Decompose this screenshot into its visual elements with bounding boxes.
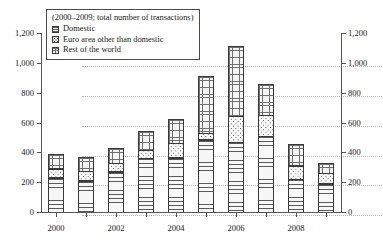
chart-legend: (2000–2009; total number of transactions… <box>46 9 200 60</box>
bar-segment-domestic <box>168 158 184 213</box>
bar-segment-rest-of-world <box>258 84 274 115</box>
legend-item-domestic: Domestic <box>52 24 193 35</box>
legend-swatch-euro-area-icon <box>52 36 59 43</box>
legend-swatch-domestic-icon <box>52 26 59 33</box>
bar-segment-domestic <box>258 136 274 213</box>
legend-swatch-rest-of-world-icon <box>52 47 59 54</box>
x-axis-tick-label-2006: 2006 <box>216 224 256 233</box>
y-axis-tick-label-right: 400 <box>348 148 361 157</box>
x-axis-tick <box>176 213 177 217</box>
y-axis-tick-label-left: 1,000 <box>15 59 34 68</box>
y-axis-tick <box>37 123 41 124</box>
y-axis-tick-label-left: 600 <box>21 119 34 128</box>
legend-label-domestic: Domestic <box>63 24 95 35</box>
bar-segment-euro-area <box>228 116 244 142</box>
y-axis-tick <box>37 33 41 34</box>
y-axis-tick-label-right: 1,000 <box>348 59 367 68</box>
bar-segment-rest-of-world <box>288 144 304 166</box>
y-axis-tick-label-left: 400 <box>21 148 34 157</box>
x-axis-tick <box>266 213 267 217</box>
y-axis-tick <box>342 93 346 94</box>
x-axis-tick-label-2002: 2002 <box>96 224 136 233</box>
y-axis-tick-label-right: 200 <box>348 178 361 187</box>
y-axis-left <box>41 33 42 212</box>
bar-segment-rest-of-world <box>198 76 214 133</box>
bar-2005 <box>198 76 214 212</box>
bar-segment-domestic <box>318 184 334 213</box>
y-axis-tick <box>37 152 41 153</box>
y-axis-tick-label-right: 1,200 <box>348 29 367 38</box>
x-axis-tick <box>86 213 87 217</box>
plot-area <box>41 33 341 212</box>
bar-2002 <box>108 148 124 212</box>
x-axis-tick <box>56 213 57 217</box>
bar-2007 <box>258 84 274 212</box>
y-axis-tick <box>37 63 41 64</box>
bar-segment-domestic <box>228 142 244 213</box>
legend-label-euro-area: Euro area other than domestic <box>63 35 163 46</box>
x-axis-tick-label-2008: 2008 <box>276 224 316 233</box>
x-axis-tick <box>296 213 297 217</box>
x-axis-tick <box>326 213 327 217</box>
bar-segment-domestic <box>288 179 304 213</box>
y-axis-tick <box>342 123 346 124</box>
bar-2009 <box>318 163 334 212</box>
y-axis-tick <box>342 212 346 213</box>
legend-item-rest-of-world: Rest of the world <box>52 45 193 56</box>
y-axis-tick-label-right: 600 <box>348 119 361 128</box>
bar-segment-rest-of-world <box>168 119 184 144</box>
y-axis-tick-label-left: 1,200 <box>15 29 34 38</box>
bar-segment-rest-of-world <box>138 131 154 151</box>
bar-segment-rest-of-world <box>78 157 94 172</box>
y-axis-tick <box>342 182 346 183</box>
x-axis-tick-label-2004: 2004 <box>156 224 196 233</box>
bar-segment-domestic <box>78 181 94 213</box>
x-axis-tick <box>116 213 117 217</box>
y-axis-tick-label-right: 0 <box>348 208 352 217</box>
y-axis-tick <box>37 93 41 94</box>
bar-2000 <box>48 154 64 212</box>
bar-segment-rest-of-world <box>228 46 244 118</box>
bar-segment-domestic <box>48 178 64 213</box>
y-axis-tick <box>342 33 346 34</box>
x-axis-tick <box>146 213 147 217</box>
y-axis-tick <box>342 152 346 153</box>
y-axis-tick <box>342 63 346 64</box>
y-axis-tick <box>37 182 41 183</box>
bar-segment-domestic <box>108 172 124 213</box>
legend-item-euro-area: Euro area other than domestic <box>52 35 193 46</box>
bar-segment-euro-area <box>288 166 304 180</box>
y-axis-tick-label-left: 0 <box>30 208 34 217</box>
legend-label-rest-of-world: Rest of the world <box>63 45 121 56</box>
bar-segment-euro-area <box>318 173 334 184</box>
y-axis-tick-label-left: 200 <box>21 178 34 187</box>
bar-segment-rest-of-world <box>48 154 64 169</box>
x-axis-tick-label-2000: 2000 <box>36 224 76 233</box>
x-axis-tick <box>206 213 207 217</box>
y-axis-tick <box>37 212 41 213</box>
gridline <box>82 215 382 216</box>
bar-2008 <box>288 144 304 212</box>
bar-segment-euro-area <box>258 115 274 137</box>
chart-figure: 002002004004006006008008001,0001,0001,20… <box>0 0 383 245</box>
x-axis-tick <box>236 213 237 217</box>
bar-2001 <box>78 157 94 212</box>
bar-segment-domestic <box>138 158 154 212</box>
y-axis-tick-label-right: 800 <box>348 89 361 98</box>
bar-segment-rest-of-world <box>108 148 124 164</box>
bar-2003 <box>138 131 154 212</box>
bar-2004 <box>168 119 184 212</box>
legend-title: (2000–2009; total number of transactions… <box>52 13 193 23</box>
y-axis-tick-label-left: 800 <box>21 89 34 98</box>
bar-segment-euro-area <box>168 143 184 158</box>
bar-segment-domestic <box>198 140 214 213</box>
bar-2006 <box>228 46 244 212</box>
